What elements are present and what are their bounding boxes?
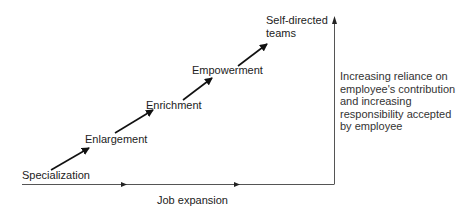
stage-label-teams: teams (266, 27, 296, 40)
x-axis-arrowhead-1 (121, 182, 127, 187)
stage-label-specialization: Specialization (22, 169, 90, 182)
stage-label-empowerment: Empowerment (192, 64, 263, 77)
y-axis-note-line: and increasing (340, 95, 412, 108)
x-axis-arrowhead-2 (234, 182, 240, 187)
y-axis (332, 16, 337, 185)
y-axis-note-line: employee's contribution (340, 83, 455, 96)
arrow-enlargement-to-enrichment (115, 110, 153, 133)
y-axis-note-line: responsibility accepted (340, 108, 451, 121)
y-axis-arrowhead (332, 16, 337, 24)
job-design-diagram: Specialization Enlargement Enrichment Em… (0, 0, 463, 222)
stage-label-enlargement: Enlargement (85, 133, 147, 146)
arrow-enrichment-to-empowerment (183, 78, 212, 100)
arrow-specialization-to-enlargement (51, 148, 89, 170)
x-axis-label: Job expansion (157, 194, 228, 207)
stage-label-enrichment: Enrichment (146, 99, 202, 112)
y-axis-note-line: by employee (340, 120, 402, 133)
y-axis-note-line: Increasing reliance on (340, 70, 448, 83)
stage-label-self-directed: Self-directed (266, 14, 328, 27)
x-axis (22, 182, 334, 187)
arrow-empowerment-to-self-directed (238, 44, 267, 66)
